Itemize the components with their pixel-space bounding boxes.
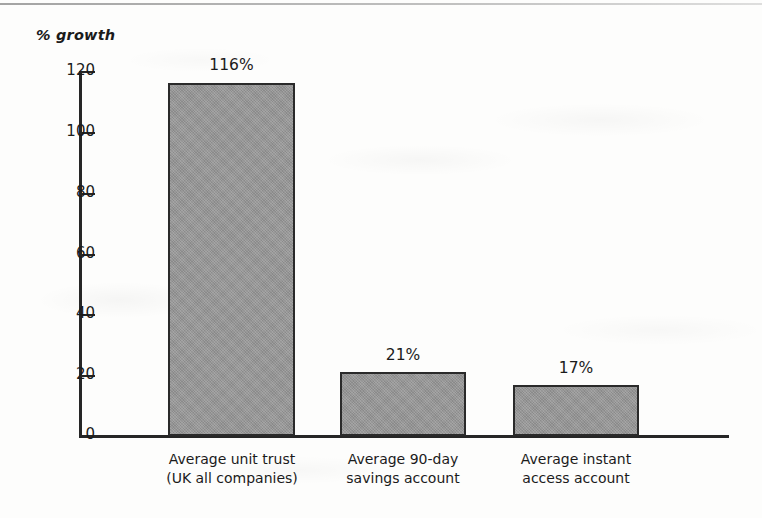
y-tick-label-20: 20 bbox=[53, 367, 95, 382]
x-category-label-line1: Average unit trust bbox=[132, 450, 332, 469]
x-category-label-line2: (UK all companies) bbox=[132, 469, 332, 488]
x-category-label-line1: Average instant bbox=[484, 450, 668, 469]
y-tick-label-100: 100 bbox=[53, 124, 95, 139]
y-tick-label-60: 60 bbox=[53, 246, 95, 261]
x-category-label-average-unit-trust: Average unit trust (UK all companies) bbox=[132, 450, 332, 488]
bar-fill-texture bbox=[170, 85, 293, 434]
bar-average-unit-trust[interactable] bbox=[168, 83, 295, 436]
chart-page: % growth 120 100 80 60 40 20 0 bbox=[0, 0, 762, 518]
bar-average-90-day-savings-account[interactable] bbox=[340, 372, 466, 436]
x-category-label-line2: savings account bbox=[311, 469, 495, 488]
x-category-label-average-instant-access-account: Average instant access account bbox=[484, 450, 668, 488]
bar-value-label-average-90-day-savings-account: 21% bbox=[340, 347, 466, 363]
x-category-label-line2: access account bbox=[484, 469, 668, 488]
bar-fill-texture bbox=[342, 374, 464, 434]
bar-value-label-average-unit-trust: 116% bbox=[168, 57, 295, 73]
bar-average-instant-access-account[interactable] bbox=[513, 385, 639, 436]
y-tick-label-40: 40 bbox=[53, 306, 95, 321]
y-tick-label-80: 80 bbox=[53, 185, 95, 200]
x-category-label-line1: Average 90-day bbox=[311, 450, 495, 469]
x-category-label-average-90-day-savings-account: Average 90-day savings account bbox=[311, 450, 495, 488]
plot-area: 120 100 80 60 40 20 0 116% bbox=[0, 0, 762, 518]
y-tick-label-120: 120 bbox=[53, 63, 95, 78]
bar-value-label-average-instant-access-account: 17% bbox=[513, 360, 639, 376]
bar-fill-texture bbox=[515, 387, 637, 434]
y-tick-label-0: 0 bbox=[53, 427, 95, 442]
